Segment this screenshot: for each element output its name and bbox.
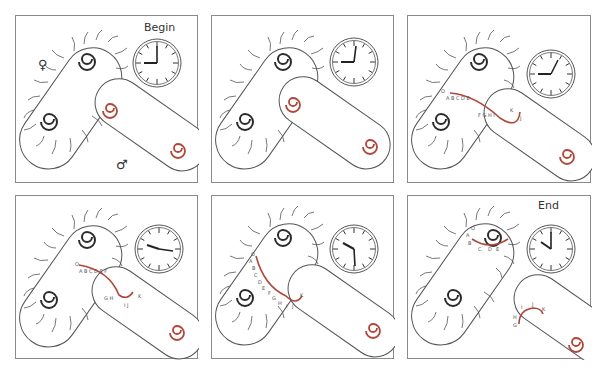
male-symbol-icon: ♂ (116, 158, 128, 171)
male-cell (86, 69, 199, 180)
svg-text:C: C (478, 246, 482, 252)
svg-text:O: O (251, 251, 255, 257)
svg-text:O: O (471, 225, 475, 231)
panel-6-illustration: OABCDE GHIJK (408, 196, 592, 360)
svg-text:J: J (291, 303, 293, 309)
clock (133, 39, 181, 87)
svg-text:O: O (75, 261, 79, 267)
svg-text:J: J (519, 115, 521, 121)
svg-text:I: I (521, 304, 522, 310)
panel-1-illustration (16, 16, 199, 184)
svg-text:A: A (466, 232, 470, 238)
panel-4-illustration: OA B C D E FG HKI J (16, 196, 199, 360)
panel-3-transfer-early: OA B C D EF G H IKJ (407, 15, 591, 183)
panel-1-begin: Begin ♀ ♂ (15, 15, 198, 183)
svg-text:B: B (468, 240, 472, 246)
svg-text:E: E (262, 285, 265, 291)
panel-6-end: OABCDE GHIJK End (407, 195, 591, 359)
svg-text:E: E (496, 246, 499, 252)
svg-text:A B C D E F: A B C D E F (79, 268, 107, 274)
panel-5-illustration: OABCDE FGHIJK (212, 196, 395, 360)
svg-text:G H: G H (104, 295, 113, 301)
panel-2-illustration (212, 16, 395, 184)
svg-text:O: O (441, 88, 445, 94)
caption-begin: Begin (144, 21, 175, 34)
svg-text:B: B (252, 265, 256, 271)
svg-text:C: C (254, 272, 258, 278)
svg-text:F: F (268, 290, 271, 296)
panel-4-transfer-mid: OA B C D E FG HKI J (15, 195, 198, 359)
female-symbol-icon: ♀ (38, 58, 48, 71)
svg-text:G: G (272, 295, 276, 301)
panel-3-illustration: OA B C D EF G H IKJ (408, 16, 592, 184)
svg-text:H: H (278, 300, 282, 306)
caption-end: End (538, 199, 559, 212)
svg-text:H: H (513, 314, 517, 320)
svg-text:A: A (249, 258, 253, 264)
svg-text:F G H I: F G H I (478, 112, 495, 118)
svg-text:I J: I J (124, 302, 129, 308)
panel-2-contact (211, 15, 394, 183)
svg-text:J: J (531, 301, 533, 307)
panel-5-transfer-late: OABCDE FGHIJK (211, 195, 394, 359)
svg-text:D: D (488, 246, 492, 252)
svg-text:A B C D E: A B C D E (446, 95, 470, 101)
svg-text:G: G (513, 322, 517, 328)
svg-text:I: I (286, 303, 287, 309)
